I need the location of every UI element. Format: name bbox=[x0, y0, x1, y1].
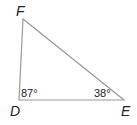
vertex-label-d: D bbox=[10, 103, 20, 119]
angle-label-e: 38° bbox=[94, 87, 111, 99]
angle-label-d: 87° bbox=[21, 87, 38, 99]
triangle-diagram: F D E 87° 38° bbox=[0, 0, 137, 125]
vertex-label-f: F bbox=[16, 3, 26, 19]
vertex-label-e: E bbox=[121, 103, 131, 119]
